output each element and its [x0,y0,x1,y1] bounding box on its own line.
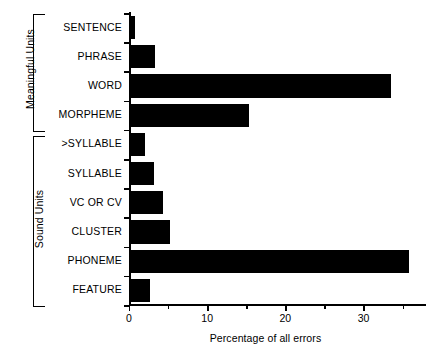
x-tick-minor [246,305,247,309]
bar-row [129,279,426,302]
bar-phoneme [129,250,409,273]
x-tick-minor [168,305,169,309]
bar-row [129,133,426,156]
y-axis-label-phrase: PHRASE [2,51,122,62]
x-tick-major [363,305,364,311]
bar-cluster [129,220,170,243]
bar-phrase [129,45,155,68]
x-tick-label: 30 [348,312,378,324]
x-tick-minor [324,305,325,309]
y-axis-label-feature: FEATURE [2,284,122,295]
bar-feature [129,279,150,302]
x-tick-label: 0 [114,312,144,324]
bar-row [129,45,426,68]
plot-area [129,13,426,305]
bar-syllable [129,162,154,185]
y-axis-label-sentence: SENTENCE [2,22,122,33]
bar-row [129,74,426,97]
bar-row [129,16,426,39]
x-tick-major [285,305,286,311]
x-tick-major [129,305,130,311]
bar-syllable [129,133,145,156]
y-axis-category-labels: SENTENCEPHRASEWORDMORPHEME>SYLLABLESYLLA… [0,0,122,356]
bar-chart: Meaningful Units Sound Units SENTENCEPHR… [0,0,433,356]
bar-row [129,250,426,273]
y-axis-label-cluster: CLUSTER [2,226,122,237]
y-axis-label-morpheme: MORPHEME [2,109,122,120]
y-axis-label-vc-or-cv: VC OR CV [2,197,122,208]
x-tick-label: 20 [270,312,300,324]
x-tick-minor [403,305,404,309]
bar-row [129,220,426,243]
y-axis-label-syllable: SYLLABLE [2,168,122,179]
bar-row [129,191,426,214]
bar-row [129,104,426,127]
bar-sentence [129,16,135,39]
y-axis-label-phoneme: PHONEME [2,255,122,266]
bar-word [129,74,391,97]
bar-vc-or-cv [129,191,163,214]
x-axis-title: Percentage of all errors [0,332,433,344]
bar-morpheme [129,104,249,127]
y-axis-label-word: WORD [2,80,122,91]
x-tick-label: 10 [192,312,222,324]
y-axis-label-syllable: >SYLLABLE [2,138,122,149]
x-tick-major [207,305,208,311]
bar-row [129,162,426,185]
